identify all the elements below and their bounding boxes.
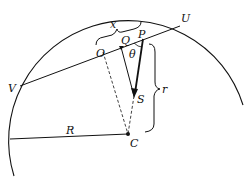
dashed-oc xyxy=(103,52,128,134)
brace-x xyxy=(96,22,141,45)
label-v: V xyxy=(8,82,17,95)
label-r-radius: R xyxy=(65,124,74,137)
theta-arc xyxy=(134,43,142,47)
label-q: Q xyxy=(121,34,130,47)
geometry-diagram: x U V O Q P θ S r R C xyxy=(0,0,251,181)
label-p: P xyxy=(137,28,146,41)
label-theta: θ xyxy=(129,48,136,61)
dashed-sc xyxy=(128,96,134,134)
brace-r xyxy=(145,44,160,132)
label-u: U xyxy=(181,12,191,25)
label-o: O xyxy=(96,47,105,60)
label-x: x xyxy=(110,18,117,31)
label-s: S xyxy=(137,93,145,106)
center-point-c xyxy=(126,132,130,136)
label-c: C xyxy=(130,137,139,150)
label-r-small: r xyxy=(162,83,168,96)
